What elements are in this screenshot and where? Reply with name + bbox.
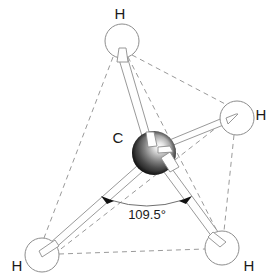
- hydrogen-right-circle: [220, 101, 254, 135]
- molecule-figure: C H H H H 109.5°: [0, 0, 275, 280]
- edge-top-to-bottom-left-h: [44, 57, 113, 238]
- carbon-label: C: [113, 129, 124, 146]
- edge-top-to-right-h: [132, 55, 229, 106]
- carbon-atom: [132, 131, 179, 175]
- angle-arc: [110, 200, 183, 206]
- hydrogen-top-label: H: [115, 5, 126, 22]
- bond-angle-annotation: [101, 196, 192, 206]
- bond-socket-right: [158, 146, 173, 153]
- molecule-diagram: C H H H H 109.5°: [0, 0, 275, 280]
- bond-angle-label: 109.5°: [128, 207, 166, 222]
- bond-stub-top: [117, 48, 128, 62]
- edge-right-h-to-bottom-right-h: [224, 135, 234, 231]
- hydrogen-bottom-left-label: H: [12, 257, 23, 274]
- edge-bottom-left-h-to-bottom-right-h: [59, 249, 205, 254]
- bond-carbon-hydrogen-bottom-right: [158, 158, 224, 245]
- hydrogen-right-label: H: [256, 106, 267, 123]
- hydrogen-bottom-right-label: H: [244, 257, 255, 274]
